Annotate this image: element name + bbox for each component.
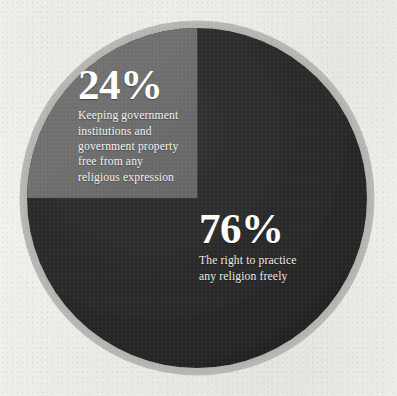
pie-chart: 24% Keeping government institutions and … xyxy=(0,0,397,396)
pie-caption-24: Keeping government institutions and gove… xyxy=(78,108,210,185)
pie-label-24: 24% Keeping government institutions and … xyxy=(78,64,210,185)
pie-percent-24: 24% xyxy=(78,64,210,106)
pie-caption-76: The right to practice any religion freel… xyxy=(199,253,339,284)
pie-chart-svg xyxy=(0,0,397,396)
pie-label-76: 76% The right to practice any religion f… xyxy=(199,208,339,284)
pie-percent-76: 76% xyxy=(199,208,339,250)
